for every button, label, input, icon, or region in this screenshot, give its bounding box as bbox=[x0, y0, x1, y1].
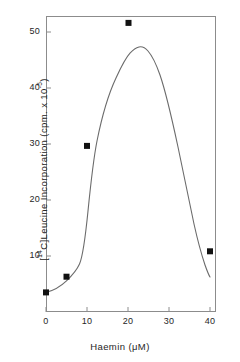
y-axis-title-body: Leucine Incorporation (cpm. x 10 bbox=[38, 88, 49, 239]
figure-container: 10 20 30 40 50 0 10 20 30 40 Haemin (μM)… bbox=[0, 0, 240, 362]
y-axis-element: C bbox=[38, 243, 49, 250]
data-point bbox=[64, 274, 70, 280]
data-point bbox=[84, 143, 90, 149]
y-axis-bracket-open: [ bbox=[38, 258, 49, 261]
plot-canvas bbox=[46, 16, 216, 312]
x-axis-ticks bbox=[46, 307, 210, 312]
y-axis-title-tail: ) bbox=[38, 78, 49, 82]
data-point bbox=[207, 248, 213, 254]
data-markers bbox=[43, 20, 213, 296]
x-tick-label-40: 40 bbox=[200, 317, 220, 326]
y-axis-bracket-close: ] bbox=[38, 239, 49, 242]
x-tick-label-20: 20 bbox=[118, 317, 138, 326]
y-tick-label-50: 50 bbox=[18, 27, 40, 36]
x-tick-label-0: 0 bbox=[36, 317, 56, 326]
data-point bbox=[126, 20, 132, 26]
x-tick-label-30: 30 bbox=[159, 317, 179, 326]
y-axis-exponent: -5 bbox=[36, 82, 43, 89]
y-axis-title: [14C]Leucine Incorporation (cpm. x 10-5) bbox=[38, 40, 49, 300]
x-tick-label-10: 10 bbox=[77, 317, 97, 326]
y-axis-isotope-number: 14 bbox=[36, 250, 43, 258]
x-axis-title: Haemin (μM) bbox=[0, 341, 240, 352]
x-axis-title-prefix: Haemin ( bbox=[90, 341, 132, 352]
data-curve bbox=[46, 47, 210, 293]
x-axis-title-suffix: M) bbox=[138, 341, 150, 352]
